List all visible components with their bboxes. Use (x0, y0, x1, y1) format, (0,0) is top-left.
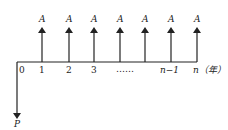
tick-label-n-year: n（年） (193, 65, 226, 75)
inflow-label-a: A (90, 14, 98, 24)
inflow-label-a: A (141, 14, 149, 24)
inflow-label-a: A (167, 14, 175, 24)
outflow-label-p: P (13, 119, 21, 129)
inflow-label-a: A (38, 14, 46, 24)
tick-label-n-minus-1: n−1 (160, 65, 179, 75)
tick-label-ellipsis: …… (116, 64, 134, 74)
tick-label-3: 3 (91, 65, 97, 75)
tick-label-2: 2 (66, 65, 72, 75)
cash-flow-diagram: P A A A A A A A 0 1 2 3 …… n−1 n（年） (0, 0, 228, 130)
tick-labels: 0 1 2 3 …… n−1 n（年） (19, 64, 226, 75)
inflow-arrows (42, 30, 197, 62)
inflow-labels: A A A A A A A (38, 14, 201, 24)
inflow-label-a: A (116, 14, 124, 24)
tick-label-1: 1 (39, 65, 45, 75)
inflow-label-a: A (65, 14, 73, 24)
tick-label-0: 0 (19, 65, 25, 75)
inflow-label-a: A (193, 14, 201, 24)
